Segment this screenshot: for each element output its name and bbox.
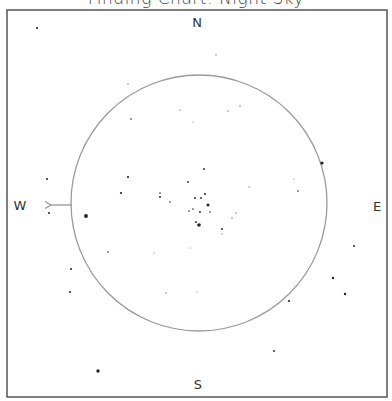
star-marker: [353, 245, 355, 247]
star-marker: [120, 192, 122, 194]
star-marker: [69, 291, 71, 293]
star-marker: [197, 223, 201, 227]
star-marker: [188, 210, 190, 212]
star-marker: [192, 121, 193, 122]
star-marker: [221, 228, 223, 230]
star-marker: [332, 277, 334, 279]
compass-east-label: E: [373, 199, 381, 214]
star-marker: [165, 292, 166, 293]
finding-chart: Finding Chart: Night Sky N S E W: [0, 0, 392, 401]
star-marker: [189, 247, 190, 248]
star-marker: [297, 190, 299, 192]
star-marker: [127, 176, 129, 178]
star-marker: [235, 212, 236, 213]
star-marker: [203, 168, 205, 170]
compass-south-label: S: [194, 377, 202, 392]
star-marker: [153, 252, 154, 253]
star-marker: [273, 350, 275, 352]
star-marker: [200, 197, 202, 199]
star-marker: [320, 161, 323, 164]
star-marker: [179, 109, 180, 110]
star-marker: [107, 251, 109, 253]
star-marker: [187, 181, 189, 183]
compass-north-label: N: [192, 15, 202, 30]
star-marker: [215, 54, 216, 55]
star-marker: [70, 268, 72, 270]
star-marker: [159, 192, 161, 194]
star-marker: [96, 369, 99, 372]
star-marker: [239, 105, 240, 106]
star-marker: [127, 83, 128, 84]
field-of-view-circle: [71, 75, 327, 331]
star-marker: [169, 201, 171, 203]
star-marker: [195, 221, 197, 223]
star-marker: [159, 196, 161, 198]
star-marker: [204, 193, 206, 195]
star-marker: [227, 110, 228, 111]
star-marker: [130, 118, 132, 120]
star-marker: [207, 204, 210, 207]
star-marker: [48, 212, 50, 214]
star-marker: [194, 197, 196, 199]
star-marker: [248, 186, 249, 187]
star-marker: [344, 293, 346, 295]
star-marker: [199, 211, 201, 213]
star-marker: [293, 178, 294, 179]
star-marker: [36, 27, 38, 29]
star-marker: [221, 233, 222, 234]
star-marker: [46, 178, 48, 180]
stars-layer: [36, 27, 355, 373]
star-marker: [288, 300, 290, 302]
compass-west-label: W: [14, 198, 27, 213]
star-marker: [231, 217, 232, 218]
chart-frame: [7, 10, 387, 397]
star-marker: [192, 208, 194, 210]
sky-chart-canvas: N S E W: [0, 0, 392, 401]
star-marker: [196, 291, 197, 292]
star-marker: [209, 211, 211, 213]
star-marker: [84, 214, 88, 218]
